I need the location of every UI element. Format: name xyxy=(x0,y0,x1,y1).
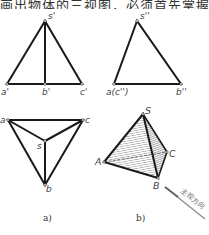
label-s: s xyxy=(37,141,42,151)
label-C: C xyxy=(169,148,176,159)
caption-a: a) xyxy=(43,213,52,223)
label-s-prime: s' xyxy=(48,11,55,21)
label-B: B xyxy=(153,180,160,191)
projection-diagram: s' a' b' c' s'' a(c'') b'' a c s b a) xyxy=(0,0,209,235)
tetrahedron-3d: S A C B xyxy=(94,105,176,191)
label-b: b xyxy=(46,184,52,194)
label-b-double-prime: b'' xyxy=(176,87,187,97)
label-c: c xyxy=(85,115,90,125)
side-view: s'' a(c'') b'' xyxy=(106,11,187,97)
caption-b: b) xyxy=(136,213,145,223)
label-a-prime: a' xyxy=(1,87,9,97)
label-a: a xyxy=(0,115,6,125)
label-S: S xyxy=(145,105,151,116)
label-a-c-double-prime: a(c'') xyxy=(106,87,128,97)
view-direction-indicator: 主视方向 xyxy=(165,186,206,219)
label-s-double-prime: s'' xyxy=(140,11,150,21)
label-b-prime: b' xyxy=(42,87,50,97)
front-view: s' a' b' c' xyxy=(1,11,87,97)
label-c-prime: c' xyxy=(80,87,87,97)
view-direction-label: 主视方向 xyxy=(179,186,207,210)
label-A: A xyxy=(94,156,102,167)
top-view: a c s b xyxy=(0,115,90,194)
